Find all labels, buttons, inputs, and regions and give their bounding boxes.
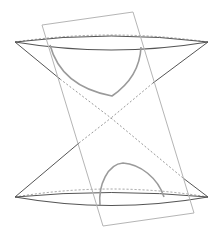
lower-left-generator-hidden [79,118,111,143]
diagram-canvas [0,0,221,238]
hyperbola-upper-branch [50,45,141,96]
lower-left-generator [15,143,79,197]
lower-rim-front [15,197,208,206]
upper-rim-front [15,42,208,50]
lower-right-generator-hidden [111,118,183,178]
upper-rim-top [15,36,208,42]
upper-right-generator-hidden [111,83,153,118]
hyperbola-lower-branch [100,163,164,205]
upper-left-generator-hidden [60,79,111,118]
cone-section-diagram [0,0,221,238]
